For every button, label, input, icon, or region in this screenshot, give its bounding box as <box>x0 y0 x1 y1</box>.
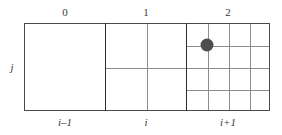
index-label-1: i <box>144 117 147 128</box>
grid-node-marker <box>201 39 214 52</box>
index-label-0: i–1 <box>58 117 72 128</box>
gridline-horizontal <box>106 68 186 69</box>
level-2-block <box>186 23 270 111</box>
level-label-0: 0 <box>62 7 68 18</box>
refined-grid-figure: 012i–1ii+1j <box>0 0 282 135</box>
level-0-block <box>24 23 106 111</box>
gridline-horizontal <box>187 68 269 69</box>
gridline-vertical <box>147 24 148 110</box>
level-label-1: 1 <box>143 7 149 18</box>
level-label-2: 2 <box>225 7 231 18</box>
gridline-horizontal <box>187 90 269 91</box>
gridline-vertical <box>229 24 230 110</box>
separator-level-0-1 <box>105 23 106 111</box>
gridline-horizontal <box>187 46 269 47</box>
row-index-label: j <box>10 62 13 73</box>
gridline-vertical <box>250 24 251 110</box>
index-label-2: i+1 <box>220 117 236 128</box>
level-1-block <box>105 23 187 111</box>
separator-level-1-2 <box>186 23 187 111</box>
gridline-vertical <box>208 24 209 110</box>
